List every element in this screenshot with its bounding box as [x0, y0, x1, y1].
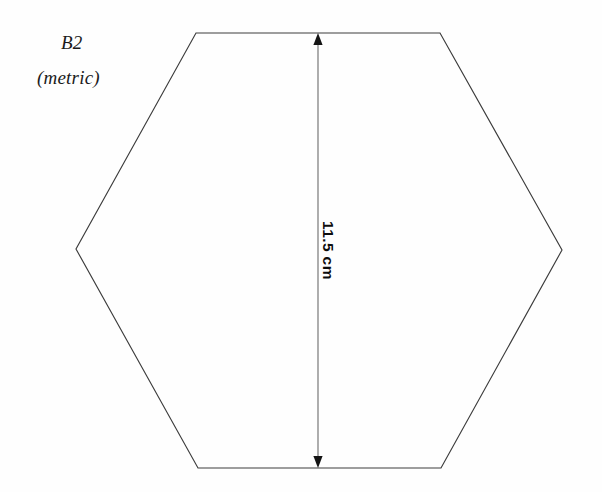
dimension-value-label: 11.5 cm [320, 221, 336, 280]
dimension-arrowhead-top-icon [313, 33, 322, 45]
shape-units-label: (metric) [37, 68, 100, 87]
hexagon-outline [76, 33, 562, 468]
dimension-arrowhead-bottom-icon [313, 456, 322, 468]
diagram-canvas: B2 (metric) 11.5 cm [0, 0, 602, 492]
shape-code-label: B2 [61, 33, 83, 52]
